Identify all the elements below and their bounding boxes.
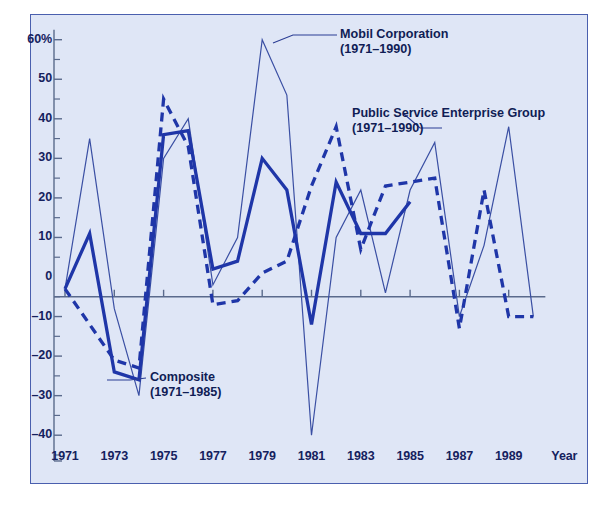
annotation-composite-line1: Composite: [150, 370, 221, 385]
y-tick-label: 0: [14, 269, 52, 283]
annotation-pseg-line1: Public Service Enterprise Group: [352, 106, 545, 121]
axes-group: [54, 30, 545, 461]
y-tick-label: –10: [14, 309, 52, 323]
annotation-composite: Composite (1971–1985): [150, 370, 221, 399]
x-tick-label: 1983: [336, 449, 386, 463]
x-tick-label: 1989: [484, 449, 534, 463]
annotation-composite-line2: (1971–1985): [150, 385, 221, 400]
annotation-pseg: Public Service Enterprise Group (1971–19…: [352, 106, 545, 135]
x-tick-label: 1975: [139, 449, 189, 463]
x-tick-label: 1977: [188, 449, 238, 463]
y-tick-label: 40: [14, 111, 52, 125]
annotation-mobil-line2: (1971–1990): [340, 42, 448, 57]
y-tick-label: 50: [14, 71, 52, 85]
series-line-composite: [65, 131, 410, 380]
chart-figure: 60%50403020100–10–20–30–40 1971197319751…: [0, 0, 605, 506]
annotation-mobil: Mobil Corporation (1971–1990): [340, 27, 448, 56]
annotation-pseg-line2: (1971–1990): [352, 121, 545, 136]
y-tick-label: –20: [14, 348, 52, 362]
series-line-public-service-enterprise-group: [65, 99, 533, 368]
series-line-mobil-corporation: [65, 40, 533, 436]
y-tick-label: 10: [14, 229, 52, 243]
chart-plot-area: [0, 0, 605, 506]
y-tick-label: –40: [14, 427, 52, 441]
x-tick-label: 1981: [287, 449, 337, 463]
x-tick-label: 1987: [434, 449, 484, 463]
y-tick-label: –30: [14, 388, 52, 402]
y-tick-label: 60%: [14, 32, 52, 46]
series-group: [65, 40, 533, 436]
y-tick-label: 30: [14, 150, 52, 164]
x-tick-label: 1985: [385, 449, 435, 463]
y-tick-label: 20: [14, 190, 52, 204]
annotation-mobil-line1: Mobil Corporation: [340, 27, 448, 42]
x-tick-label: 1971: [40, 449, 90, 463]
x-tick-label: 1979: [237, 449, 287, 463]
leader-mobil: [273, 35, 337, 43]
x-tick-label: 1973: [89, 449, 139, 463]
x-axis-caption: Year: [541, 449, 587, 463]
